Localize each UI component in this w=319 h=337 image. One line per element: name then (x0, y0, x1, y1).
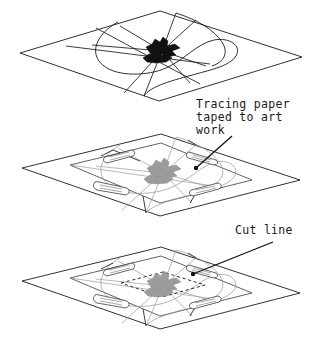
cut-line-label: Cut line (235, 223, 293, 237)
tracing-paper-label-line3: work (196, 123, 225, 137)
tracing-paper-label-line2: taped to art (196, 110, 283, 124)
cut-line-leader-dot (191, 272, 195, 276)
tracing-paper-leader-dot (194, 166, 198, 170)
tracing-paper-label-line1: Tracing paper (196, 97, 290, 111)
tracing-paper-diagram: Tracing paper taped to art work Cut line (0, 0, 319, 337)
